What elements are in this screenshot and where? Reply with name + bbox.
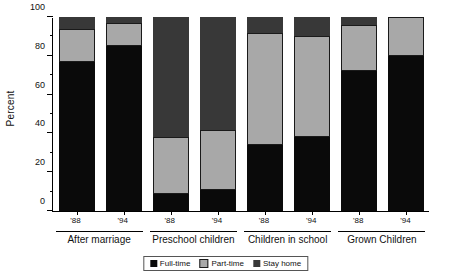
legend-label-part-time: Part-time bbox=[211, 259, 243, 268]
bar-2 bbox=[153, 17, 189, 211]
x-axis-tick-4 bbox=[265, 211, 266, 215]
x-axis-label-7: '94 bbox=[385, 216, 425, 225]
y-axis-label-0: 0 bbox=[15, 196, 45, 206]
bar-0-segment-stay-home bbox=[59, 17, 95, 29]
bar-6 bbox=[341, 17, 377, 211]
legend-swatch-full-time-icon bbox=[150, 260, 157, 267]
bar-3-segment-stay-home bbox=[200, 17, 236, 130]
y-axis-title: Percent bbox=[2, 48, 20, 168]
x-axis-tick-0 bbox=[77, 211, 78, 215]
y-axis-tick-0 bbox=[47, 210, 53, 211]
group-rule-2 bbox=[244, 231, 331, 232]
y-axis-tick-30 bbox=[50, 152, 53, 153]
legend-item-part-time: Part-time bbox=[199, 259, 243, 268]
group-label-3: Grown Children bbox=[347, 234, 416, 245]
legend-item-full-time: Full-time bbox=[150, 259, 191, 268]
legend: Full-time Part-time Stay home bbox=[143, 256, 308, 271]
y-axis-tick-80 bbox=[47, 55, 53, 56]
bar-1-segment-stay-home bbox=[106, 17, 142, 23]
group-rule-3 bbox=[338, 231, 425, 232]
y-axis-tick-90 bbox=[50, 35, 53, 36]
legend-swatch-stay-home-icon bbox=[253, 260, 260, 267]
bar-5-segment-stay-home bbox=[294, 17, 330, 36]
legend-label-stay-home: Stay home bbox=[263, 259, 301, 268]
y-axis-tick-40 bbox=[47, 132, 53, 133]
bar-4 bbox=[247, 17, 283, 211]
bar-7-segment-part-time bbox=[388, 17, 424, 56]
bar-5-segment-part-time bbox=[294, 36, 330, 137]
bar-1 bbox=[106, 17, 142, 211]
x-axis-label-1: '94 bbox=[103, 216, 143, 225]
bar-0 bbox=[59, 17, 95, 211]
bar-3-segment-full-time bbox=[200, 190, 236, 211]
bar-0-segment-part-time bbox=[59, 29, 95, 62]
y-axis-tick-70 bbox=[50, 74, 53, 75]
y-axis-tick-50 bbox=[50, 113, 53, 114]
group-label-0: After marriage bbox=[67, 234, 130, 245]
bar-7-segment-full-time bbox=[388, 56, 424, 211]
y-axis-tick-60 bbox=[47, 94, 53, 95]
bar-6-segment-full-time bbox=[341, 71, 377, 211]
bar-7 bbox=[388, 17, 424, 211]
bar-1-segment-full-time bbox=[106, 46, 142, 211]
bar-4-segment-stay-home bbox=[247, 17, 283, 33]
y-axis-tick-100 bbox=[47, 16, 53, 17]
bar-4-segment-full-time bbox=[247, 145, 283, 211]
x-axis-label-6: '88 bbox=[338, 216, 378, 225]
bar-5 bbox=[294, 17, 330, 211]
y-axis-tick-20 bbox=[47, 171, 53, 172]
y-axis-tick-10 bbox=[50, 191, 53, 192]
x-axis-label-2: '88 bbox=[150, 216, 190, 225]
bar-4-segment-part-time bbox=[247, 33, 283, 146]
legend-label-full-time: Full-time bbox=[160, 259, 191, 268]
stacked-bar-chart: Percent 020406080100 '88'94'88'94'88'94'… bbox=[0, 0, 451, 278]
x-axis-label-5: '94 bbox=[291, 216, 331, 225]
x-axis-label-0: '88 bbox=[56, 216, 96, 225]
bar-2-segment-stay-home bbox=[153, 17, 189, 137]
y-axis-label-60: 60 bbox=[15, 80, 45, 90]
x-axis-label-3: '94 bbox=[197, 216, 237, 225]
y-axis-label-80: 80 bbox=[15, 41, 45, 51]
x-axis-tick-6 bbox=[359, 211, 360, 215]
y-axis-label-40: 40 bbox=[15, 118, 45, 128]
bar-6-segment-part-time bbox=[341, 25, 377, 72]
bar-6-segment-stay-home bbox=[341, 17, 377, 25]
bar-1-segment-part-time bbox=[106, 23, 142, 46]
x-axis-tick-2 bbox=[171, 211, 172, 215]
x-axis-tick-5 bbox=[312, 211, 313, 215]
group-rule-0 bbox=[56, 231, 143, 232]
bar-0-segment-full-time bbox=[59, 62, 95, 211]
bar-2-segment-part-time bbox=[153, 137, 189, 193]
group-rule-1 bbox=[150, 231, 237, 232]
bar-5-segment-full-time bbox=[294, 137, 330, 211]
plot-area: 020406080100 bbox=[52, 18, 429, 212]
x-axis-label-4: '88 bbox=[244, 216, 284, 225]
legend-swatch-part-time-icon bbox=[199, 259, 208, 268]
bar-3 bbox=[200, 17, 236, 211]
y-axis-label-100: 100 bbox=[15, 2, 45, 12]
legend-item-stay-home: Stay home bbox=[253, 259, 301, 268]
group-label-2: Children in school bbox=[248, 234, 328, 245]
group-label-1: Preschool children bbox=[152, 234, 234, 245]
x-axis-tick-7 bbox=[406, 211, 407, 215]
x-axis-tick-3 bbox=[218, 211, 219, 215]
y-axis-label-20: 20 bbox=[15, 157, 45, 167]
bar-3-segment-part-time bbox=[200, 130, 236, 190]
bar-2-segment-full-time bbox=[153, 194, 189, 211]
x-axis-tick-1 bbox=[124, 211, 125, 215]
